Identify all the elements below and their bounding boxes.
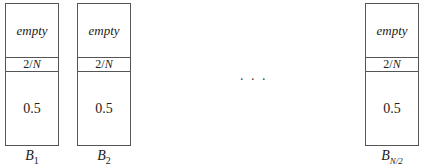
large-item-segment: 0.5 xyxy=(366,72,418,145)
large-item-segment: 0.5 xyxy=(6,72,58,145)
fraction-numerator: 2/ xyxy=(95,57,104,72)
bin-b2: empty 2/N 0.5 xyxy=(77,3,131,146)
fraction-variable: N xyxy=(105,57,113,72)
bin-label-b2: B2 xyxy=(77,148,131,166)
ellipsis: . . . xyxy=(240,68,268,84)
fraction-numerator: 2/ xyxy=(383,57,392,72)
fraction-variable: N xyxy=(33,57,41,72)
label-subscript: N/2 xyxy=(390,156,403,166)
label-main: B xyxy=(25,148,34,163)
empty-segment: empty xyxy=(366,4,418,57)
label-main: B xyxy=(381,148,390,163)
small-item-segment: 2/N xyxy=(6,57,58,72)
bin-label-bn2: BN/2 xyxy=(365,148,419,166)
label-subscript: 1 xyxy=(34,155,39,166)
label-subscript: 2 xyxy=(106,155,111,166)
label-main: B xyxy=(97,148,106,163)
bin-bn2: empty 2/N 0.5 xyxy=(365,3,419,146)
small-item-segment: 2/N xyxy=(366,57,418,72)
bin-label-b1: B1 xyxy=(5,148,59,166)
large-item-segment: 0.5 xyxy=(78,72,130,145)
fraction-variable: N xyxy=(393,57,401,72)
fraction-numerator: 2/ xyxy=(23,57,32,72)
empty-segment: empty xyxy=(78,4,130,57)
bin-b1: empty 2/N 0.5 xyxy=(5,3,59,146)
empty-segment: empty xyxy=(6,4,58,57)
small-item-segment: 2/N xyxy=(78,57,130,72)
